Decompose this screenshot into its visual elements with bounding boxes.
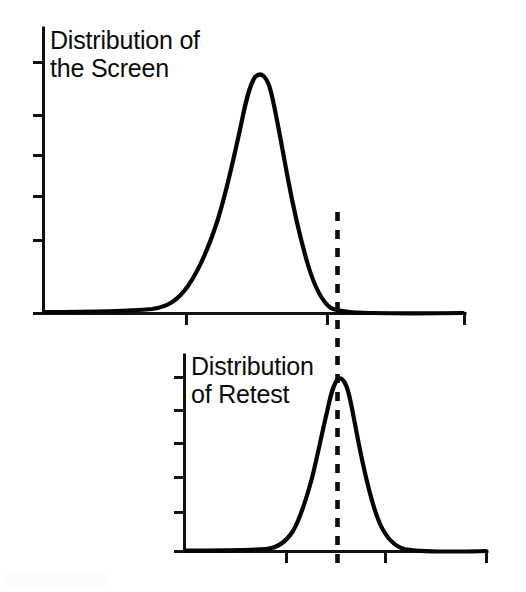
bottom-chart-label: Distribution of Retest bbox=[191, 352, 314, 408]
top-chart-label: Distribution of the Screen bbox=[50, 26, 200, 82]
top-chart-distribution-curve bbox=[45, 75, 463, 314]
scan-artifact bbox=[4, 574, 108, 587]
distribution-figure: Distribution of the Screen Distribution … bbox=[0, 0, 526, 592]
figure-canvas bbox=[0, 0, 526, 592]
